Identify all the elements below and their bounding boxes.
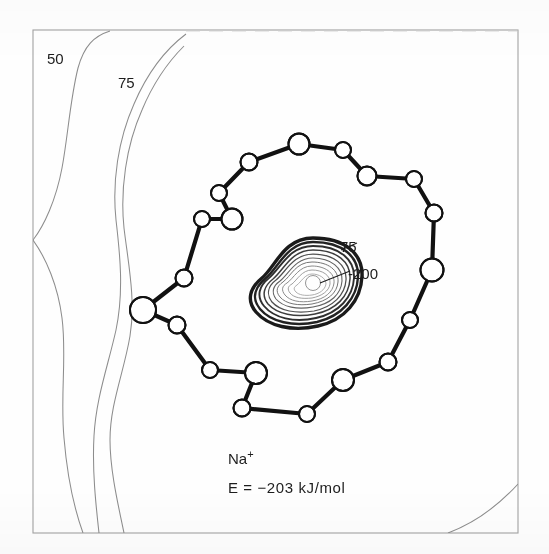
atom-o10: [245, 362, 267, 384]
figure-root: 50 75 75 -200 Na+ E = −203 kJ/mol: [0, 0, 549, 554]
atom-c8: [169, 317, 186, 334]
atom-c5: [194, 211, 210, 227]
atom-o16: [421, 259, 444, 282]
atom-o13: [332, 369, 354, 391]
atom-c19: [358, 167, 377, 186]
atom-o1: [289, 134, 310, 155]
atom-c20: [335, 142, 351, 158]
atom-c15: [402, 312, 418, 328]
atom-c18: [406, 171, 422, 187]
contour-figure: 50 75 75 -200 Na+ E = −203 kJ/mol: [0, 0, 549, 554]
atom-c3: [211, 185, 227, 201]
contour-label-50: 50: [47, 50, 64, 67]
species-symbol: Na: [228, 450, 248, 467]
atom-o4: [222, 209, 243, 230]
contour-label-75-core: 75: [340, 238, 357, 255]
atom-c12: [299, 406, 315, 422]
atom-o7: [130, 297, 156, 323]
atom-c6: [176, 270, 193, 287]
atom-c14: [380, 354, 397, 371]
contour-label-75-outer: 75: [118, 74, 135, 91]
atom-c17: [426, 205, 443, 222]
atom-c11: [234, 400, 251, 417]
energy-caption: E = −203 kJ/mol: [228, 479, 345, 496]
species-charge: +: [247, 448, 253, 460]
atom-c9: [202, 362, 218, 378]
contour-label-minus-200: -200: [348, 265, 378, 282]
atom-c2: [241, 154, 258, 171]
